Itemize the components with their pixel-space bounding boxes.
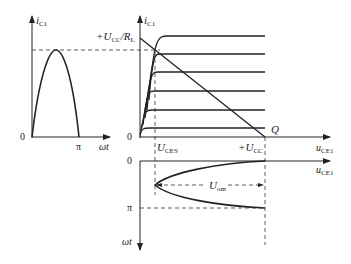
uces-label: UCES [157,141,178,155]
left-panel: iC1 0 π ωt [20,14,160,152]
bottom-x-label: uCE1 [316,164,334,177]
saturation-line [140,60,154,137]
uom-arrow-right [258,183,264,187]
curve-4 [145,72,265,118]
curve-5 [147,54,265,110]
curve-3 [143,91,265,125]
main-y-label: iC1 [144,14,156,28]
bottom-pi: π [127,202,132,213]
left-origin: 0 [20,131,25,142]
bottom-panel: Uom 0 π ωt uCE1 [122,155,334,250]
q-point-label: Q [271,123,279,135]
left-x-label: ωt [99,141,109,152]
bottom-origin: 0 [127,155,132,166]
load-line [140,38,265,137]
half-sine-current [32,50,79,137]
curve-2 [141,110,265,130]
bottom-y-label: ωt [122,236,132,247]
ucc-rl-label: +UCC/RL [96,30,135,44]
class-b-amplifier-diagram: iC1 0 π ωt iC1 +UCC/RL 0 Q UCES +UCC uCE… [0,0,351,264]
main-origin: 0 [127,131,132,142]
left-y-label: iC1 [36,14,48,28]
main-x-label: uCE1 [316,142,334,155]
uom-label: Uom [209,179,226,193]
left-pi: π [76,141,81,152]
ucc-label: +UCC [238,141,263,155]
curve-1 [140,128,265,134]
